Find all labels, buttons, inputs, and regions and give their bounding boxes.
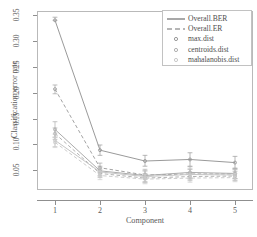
legend-item: max.dist (163, 34, 251, 44)
point-marker-icon (166, 45, 186, 55)
legend-label: max.dist (188, 34, 214, 44)
legend-item: Overall.BER (163, 14, 251, 24)
legend-label: centroids.dist (188, 45, 229, 55)
classification-error-rate-chart: 0.050.100.150.200.250.300.35 12345 Compo… (0, 0, 257, 237)
legend-item: mahalanobis.dist (163, 55, 251, 65)
x-axis-tick-label: 3 (135, 206, 155, 215)
legend-label: Overall.ER (188, 24, 222, 34)
legend-item: centroids.dist (163, 45, 251, 55)
solid-line-icon (166, 14, 186, 24)
y-axis-tick-label: 0.35 (12, 0, 22, 31)
point-marker-icon (166, 55, 186, 65)
legend-label: mahalanobis.dist (188, 55, 239, 65)
y-axis-tick (33, 170, 37, 171)
y-axis-tick (33, 15, 37, 16)
dashed-line-icon (166, 24, 186, 34)
y-axis-tick (33, 67, 37, 68)
legend-item: Overall.ER (163, 24, 251, 34)
legend-label: Overall.BER (188, 14, 227, 24)
x-axis-tick-label: 5 (225, 206, 245, 215)
y-axis-tick (33, 144, 37, 145)
y-axis-tick (33, 93, 37, 94)
x-axis-title: Component (95, 216, 195, 225)
x-axis-tick-label: 4 (180, 206, 200, 215)
x-axis-tick-label: 2 (90, 206, 110, 215)
x-axis-line (37, 200, 253, 201)
y-axis-title: Classification error rate (10, 40, 19, 160)
y-axis-tick (33, 119, 37, 120)
point-marker-icon (166, 34, 186, 44)
y-axis-tick (33, 41, 37, 42)
chart-legend: Overall.BEROverall.ERmax.distcentroids.d… (162, 10, 252, 66)
x-axis-tick-label: 1 (45, 206, 65, 215)
